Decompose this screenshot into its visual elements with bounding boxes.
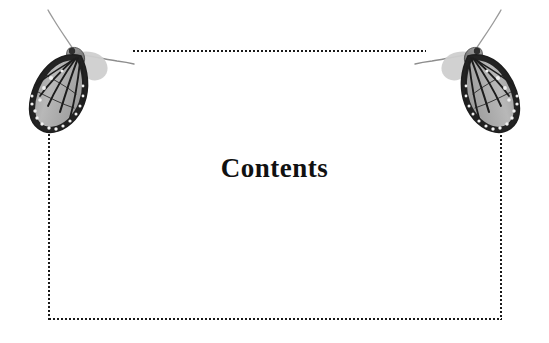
frame-border-right <box>500 122 502 320</box>
page-title: Contents <box>0 153 549 184</box>
frame-border-top <box>132 50 426 52</box>
contents-page: Contents <box>0 0 549 343</box>
antenna-upper <box>48 10 75 52</box>
butterfly-left-icon <box>18 8 138 143</box>
butterfly-head <box>474 48 480 54</box>
antenna-upper <box>474 10 501 52</box>
butterfly-forewing <box>461 55 519 133</box>
butterfly-head <box>69 48 75 54</box>
butterfly-right-icon <box>411 8 531 143</box>
butterfly-forewing <box>30 55 88 133</box>
frame-border-bottom <box>48 318 502 320</box>
